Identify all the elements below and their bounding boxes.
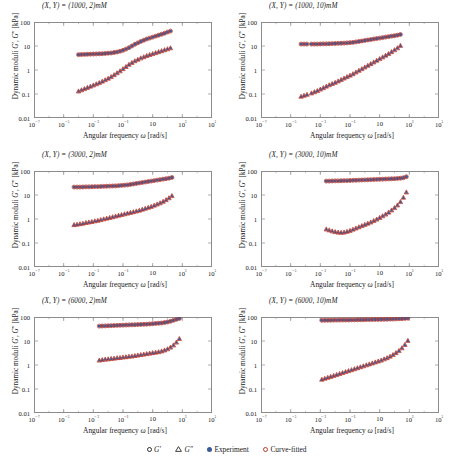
series-g-curve-fitted bbox=[299, 43, 403, 98]
y-tick-label: 100 bbox=[4, 19, 30, 26]
x-tick-label: 10⁻³ bbox=[80, 269, 106, 277]
panel-title: (X, Y) = (3000, 2)mM bbox=[42, 151, 107, 159]
chart-panel-4: (X, Y) = (6000, 2)mMDynamic moduli G′, G… bbox=[0, 295, 226, 443]
y-tick-label: 10 bbox=[4, 338, 30, 345]
chart-panel-2: (X, Y) = (3000, 2)mMDynamic moduli G′, G… bbox=[0, 149, 226, 297]
plot-canvas bbox=[261, 22, 439, 118]
y-tick-label: 10 bbox=[231, 338, 257, 345]
y-tick-label: 10 bbox=[4, 43, 30, 50]
chart-panel-0: (X, Y) = (1000, 2)mMDynamic moduli G′, G… bbox=[0, 0, 226, 148]
legend-entry-2: Experiment bbox=[207, 444, 249, 454]
circle-open-icon bbox=[263, 447, 268, 452]
y-tick-label: 10 bbox=[231, 43, 257, 50]
x-tick-label: 10⁻⁷ bbox=[21, 269, 47, 277]
y-tick-label: 100 bbox=[231, 19, 257, 26]
y-tick-label: 1 bbox=[231, 216, 257, 223]
x-tick-label: 10³ bbox=[169, 120, 195, 128]
series-g-curve-fitted bbox=[320, 338, 410, 381]
series-g-curve-fitted bbox=[324, 190, 409, 234]
x-axis-label: Angular frequency ω [rad/s] bbox=[257, 280, 447, 289]
y-tick-label: 100 bbox=[231, 314, 257, 321]
y-tick-label: 100 bbox=[231, 168, 257, 175]
circle-open-icon bbox=[147, 447, 152, 452]
x-tick-label: 10 bbox=[367, 269, 393, 276]
x-tick-label: 10⁻¹ bbox=[337, 120, 363, 128]
x-axis-label: Angular frequency ω [rad/s] bbox=[30, 131, 220, 140]
x-tick-label: 10⁻⁷ bbox=[248, 415, 274, 423]
x-tick-label: 10⁻⁵ bbox=[278, 415, 304, 423]
y-tick-label: 0.1 bbox=[4, 91, 30, 98]
x-tick-label: 10⁻¹ bbox=[110, 415, 136, 423]
x-tick-label: 10⁻⁷ bbox=[248, 120, 274, 128]
x-tick-label: 10⁻⁵ bbox=[278, 269, 304, 277]
x-tick-label: 10 bbox=[140, 120, 166, 127]
x-axis-label: Angular frequency ω [rad/s] bbox=[257, 426, 447, 435]
x-tick-label: 10³ bbox=[396, 269, 422, 277]
series-g-experiment bbox=[72, 194, 174, 227]
x-tick-label: 10 bbox=[367, 120, 393, 127]
plot-canvas bbox=[34, 22, 212, 118]
y-tick-label: 1 bbox=[231, 362, 257, 369]
triangle-open-icon bbox=[175, 445, 182, 454]
y-tick-label: 1 bbox=[4, 362, 30, 369]
chart-panel-5: (X, Y) = (6000, 10)mMDynamic moduli G′, … bbox=[227, 295, 453, 443]
x-tick-label: 10 bbox=[140, 415, 166, 422]
x-tick-label: 10⁻¹ bbox=[110, 120, 136, 128]
y-tick-label: 1 bbox=[4, 67, 30, 74]
panel-title: (X, Y) = (6000, 10)mM bbox=[269, 297, 337, 305]
x-tick-label: 10 bbox=[367, 415, 393, 422]
x-tick-label: 10³ bbox=[169, 269, 195, 277]
legend-entry-0: G′ bbox=[147, 444, 161, 454]
y-tick-label: 100 bbox=[4, 314, 30, 321]
x-tick-label: 10⁻³ bbox=[80, 120, 106, 128]
x-tick-label: 10⁵ bbox=[426, 120, 452, 128]
x-tick-label: 10⁵ bbox=[426, 269, 452, 277]
x-tick-label: 10 bbox=[140, 269, 166, 276]
legend-label: G′ bbox=[154, 445, 161, 454]
x-tick-label: 10⁻¹ bbox=[110, 269, 136, 277]
legend-entry-3: Curve-fitted bbox=[263, 444, 307, 454]
x-tick-label: 10⁻³ bbox=[80, 415, 106, 423]
x-tick-label: 10³ bbox=[396, 120, 422, 128]
panel-title: (X, Y) = (6000, 2)mM bbox=[42, 297, 107, 305]
x-tick-label: 10⁻¹ bbox=[337, 415, 363, 423]
x-tick-label: 10⁵ bbox=[199, 269, 225, 277]
x-tick-label: 10⁵ bbox=[199, 120, 225, 128]
series-g-experiment bbox=[299, 33, 402, 46]
plot-canvas bbox=[261, 171, 439, 267]
y-tick-label: 10 bbox=[4, 192, 30, 199]
legend-label: Curve-fitted bbox=[270, 445, 306, 454]
series-g-curve-fitted bbox=[324, 175, 408, 183]
x-tick-label: 10⁻⁵ bbox=[278, 120, 304, 128]
y-tick-label: 100 bbox=[4, 168, 30, 175]
y-tick-label: 0.1 bbox=[4, 386, 30, 393]
series-g-curve-fitted bbox=[97, 336, 182, 362]
x-tick-label: 10⁻⁷ bbox=[248, 269, 274, 277]
circle-filled-icon bbox=[207, 447, 212, 452]
x-tick-label: 10⁻⁵ bbox=[51, 415, 77, 423]
x-tick-label: 10⁻³ bbox=[307, 120, 333, 128]
x-tick-label: 10⁻³ bbox=[307, 269, 333, 277]
x-axis-label: Angular frequency ω [rad/s] bbox=[30, 280, 220, 289]
panel-title: (X, Y) = (1000, 10)mM bbox=[269, 2, 337, 10]
y-tick-label: 1 bbox=[231, 67, 257, 74]
x-axis-label: Angular frequency ω [rad/s] bbox=[257, 131, 447, 140]
x-tick-label: 10⁵ bbox=[199, 415, 225, 423]
series-g-experiment bbox=[324, 190, 408, 234]
chart-panel-3: (X, Y) = (3000, 10)mMDynamic moduli G′, … bbox=[227, 149, 453, 297]
x-tick-label: 10⁻⁷ bbox=[21, 120, 47, 128]
plot-canvas bbox=[34, 317, 212, 413]
legend-label: Experiment bbox=[214, 445, 248, 454]
y-tick-label: 1 bbox=[4, 216, 30, 223]
plot-canvas bbox=[261, 317, 439, 413]
plot-canvas bbox=[34, 171, 212, 267]
x-tick-label: 10⁻¹ bbox=[337, 269, 363, 277]
x-tick-label: 10³ bbox=[396, 415, 422, 423]
y-tick-label: 0.1 bbox=[231, 91, 257, 98]
y-tick-label: 0.1 bbox=[231, 386, 257, 393]
y-tick-label: 10 bbox=[231, 192, 257, 199]
y-tick-label: 0.1 bbox=[4, 240, 30, 247]
x-axis-label: Angular frequency ω [rad/s] bbox=[30, 426, 220, 435]
panel-title: (X, Y) = (3000, 10)mM bbox=[269, 151, 337, 159]
rheology-figure: (X, Y) = (1000, 2)mMDynamic moduli G′, G… bbox=[0, 0, 453, 466]
